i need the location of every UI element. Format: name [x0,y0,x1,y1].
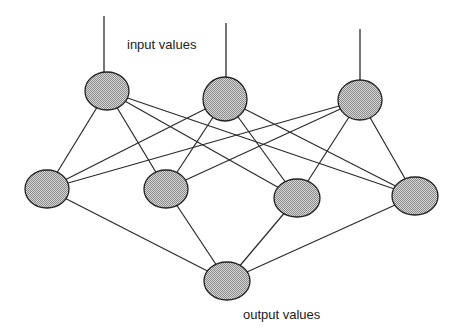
input-node-i1 [85,72,129,110]
output-values-label: output values [243,308,320,321]
output-node-o1 [204,262,250,300]
input-values-label: input values [127,38,196,51]
neuron-nodes [25,72,438,300]
edge-i2-h4 [225,99,415,196]
neural-network-diagram: input values output values [0,0,457,332]
hidden-node-h1 [25,170,69,208]
network-graph [0,0,457,332]
input-node-i3 [338,80,382,120]
input-node-i2 [203,77,247,121]
edge-h4-o1 [227,196,415,281]
hidden-node-h4 [392,177,438,215]
hidden-node-h3 [274,179,320,217]
edge-i2-h1 [47,99,225,189]
edge-h1-o1 [47,189,227,281]
hidden-node-h2 [144,170,188,208]
